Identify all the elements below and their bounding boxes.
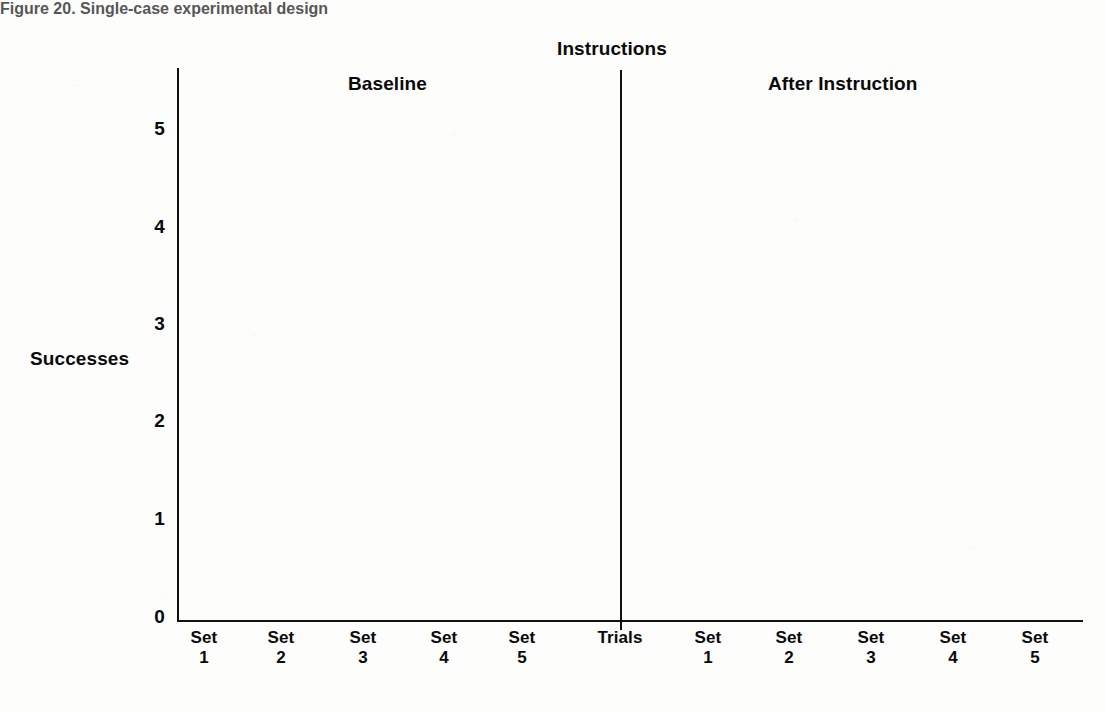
y-tick-label-3: 3: [143, 313, 165, 335]
y-tick-label-2: 2: [143, 410, 165, 432]
x-tick-label-after-set-3: Set 3: [836, 628, 906, 668]
phase-label-baseline: Baseline: [348, 73, 427, 95]
x-axis-line: [177, 620, 1083, 622]
figure-canvas: Instructions Baseline After Instruction …: [0, 0, 1106, 712]
x-tick-label-baseline-set-2: Set 2: [246, 628, 316, 668]
x-tick-label-baseline-set-3: Set 3: [328, 628, 398, 668]
figure-caption: Figure 20. Single-case experimental desi…: [0, 0, 1106, 18]
phase-label-after-instruction: After Instruction: [768, 73, 917, 95]
paper-texture: [0, 0, 1106, 712]
phase-change-line: [620, 70, 622, 630]
x-tick-label-after-set-2: Set 2: [754, 628, 824, 668]
y-tick-label-5: 5: [143, 118, 165, 140]
phase-change-annotation-label: Instructions: [557, 38, 667, 60]
y-axis-line: [177, 68, 179, 622]
x-tick-label-baseline-set-4: Set 4: [409, 628, 479, 668]
y-axis-title: Successes: [30, 348, 129, 370]
x-axis-title: Trials: [580, 628, 660, 648]
x-tick-label-after-set-1: Set 1: [673, 628, 743, 668]
x-tick-label-after-set-4: Set 4: [918, 628, 988, 668]
x-tick-label-baseline-set-1: Set 1: [169, 628, 239, 668]
y-tick-label-4: 4: [143, 216, 165, 238]
x-tick-label-after-set-5: Set 5: [1000, 628, 1070, 668]
y-tick-label-1: 1: [143, 508, 165, 530]
x-tick-label-baseline-set-5: Set 5: [487, 628, 557, 668]
y-tick-label-0: 0: [143, 606, 165, 628]
